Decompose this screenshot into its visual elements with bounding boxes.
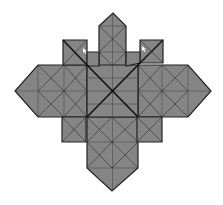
connector-top-left: [87, 52, 99, 66]
figure-stage: [0, 0, 223, 205]
connector-top-right: [126, 52, 140, 66]
tessellation-figure: [0, 0, 223, 205]
